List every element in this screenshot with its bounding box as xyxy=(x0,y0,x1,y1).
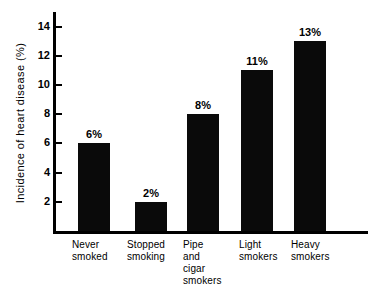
bar-1 xyxy=(135,202,167,231)
x-axis-line xyxy=(53,231,368,234)
y-tick-label-14: 14 xyxy=(30,21,50,32)
bar-0 xyxy=(78,143,110,231)
y-tick-8 xyxy=(56,113,62,115)
y-tick-2 xyxy=(56,201,62,203)
y-tick-label-text: 12 xyxy=(30,50,50,61)
y-tick-label-8: 8 xyxy=(30,108,50,119)
y-tick-label-text: 2 xyxy=(30,196,50,207)
bar-2 xyxy=(187,114,219,231)
y-tick-label-text: 14 xyxy=(30,21,50,32)
bar-4 xyxy=(294,41,326,231)
bar-value-label-0: 6% xyxy=(68,128,120,140)
y-tick-label-text: 8 xyxy=(30,108,50,119)
y-axis-title: Incidence of heart disease (%) xyxy=(12,28,28,218)
bar-value-label-2: 8% xyxy=(177,99,229,111)
bar-chart: Incidence of heart disease (%) 246810121… xyxy=(0,0,390,293)
x-category-label-4: Heavy smokers xyxy=(291,239,329,263)
bar-value-label-1: 2% xyxy=(125,187,177,199)
x-category-label-1: Stopped smoking xyxy=(127,239,165,263)
x-category-label-0: Never smoked xyxy=(72,239,108,263)
x-category-label-3: Light smokers xyxy=(239,239,277,263)
bar-value-label-3: 11% xyxy=(231,55,283,67)
y-tick-label-text: 6 xyxy=(30,137,50,148)
y-tick-10 xyxy=(56,84,62,86)
y-tick-label-6: 6 xyxy=(30,137,50,148)
y-tick-12 xyxy=(56,55,62,57)
y-tick-label-4: 4 xyxy=(30,167,50,178)
y-tick-label-2: 2 xyxy=(30,196,50,207)
bar-value-label-4: 13% xyxy=(284,26,336,38)
bar-3 xyxy=(241,70,273,231)
y-tick-6 xyxy=(56,142,62,144)
y-tick-label-12: 12 xyxy=(30,50,50,61)
x-category-label-2: Pipe and cigar smokers xyxy=(183,239,221,287)
y-tick-label-10: 10 xyxy=(30,79,50,90)
y-tick-label-text: 10 xyxy=(30,79,50,90)
y-tick-14 xyxy=(56,26,62,28)
y-tick-label-text: 4 xyxy=(30,167,50,178)
y-tick-4 xyxy=(56,172,62,174)
